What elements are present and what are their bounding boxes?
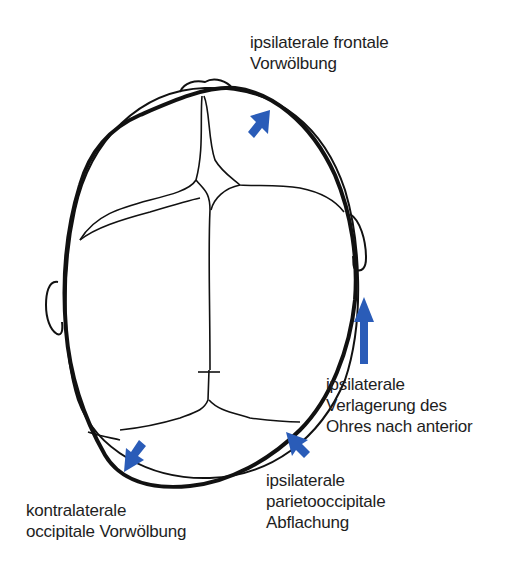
occipital-bulge-arrow-icon (124, 440, 146, 472)
label-line: ipsilaterale (326, 374, 472, 395)
label-ear-displacement: ipsilaterale Verlagerung des Ohres nach … (326, 374, 472, 437)
skull-illustration (0, 0, 523, 573)
label-line: Abflachung (266, 512, 385, 533)
label-line: kontralaterale (26, 500, 186, 521)
label-line: ipsilaterale (266, 470, 385, 491)
label-parietooccipital-flattening: ipsilaterale parietooccipitale Abflachun… (266, 470, 385, 533)
label-line: Ohres nach anterior (326, 416, 472, 437)
label-line: parietooccipitale (266, 491, 385, 512)
label-line: Vorwölbung (250, 53, 389, 74)
label-line: Verlagerung des (326, 395, 472, 416)
left-ear-icon (46, 282, 62, 335)
frontal-bulge-arrow-icon (248, 110, 270, 138)
label-occipital-bulge: kontralaterale occipitale Vorwölbung (26, 500, 186, 542)
label-frontal-bulge: ipsilaterale frontale Vorwölbung (250, 32, 389, 74)
label-line: occipitale Vorwölbung (26, 521, 186, 542)
label-line: ipsilaterale frontale (250, 32, 389, 53)
parietooccipital-flattening-arrow-icon (286, 432, 310, 458)
cranial-sutures (80, 96, 344, 440)
skull-diagram: ipsilaterale frontale Vorwölbung ipsilat… (0, 0, 523, 573)
